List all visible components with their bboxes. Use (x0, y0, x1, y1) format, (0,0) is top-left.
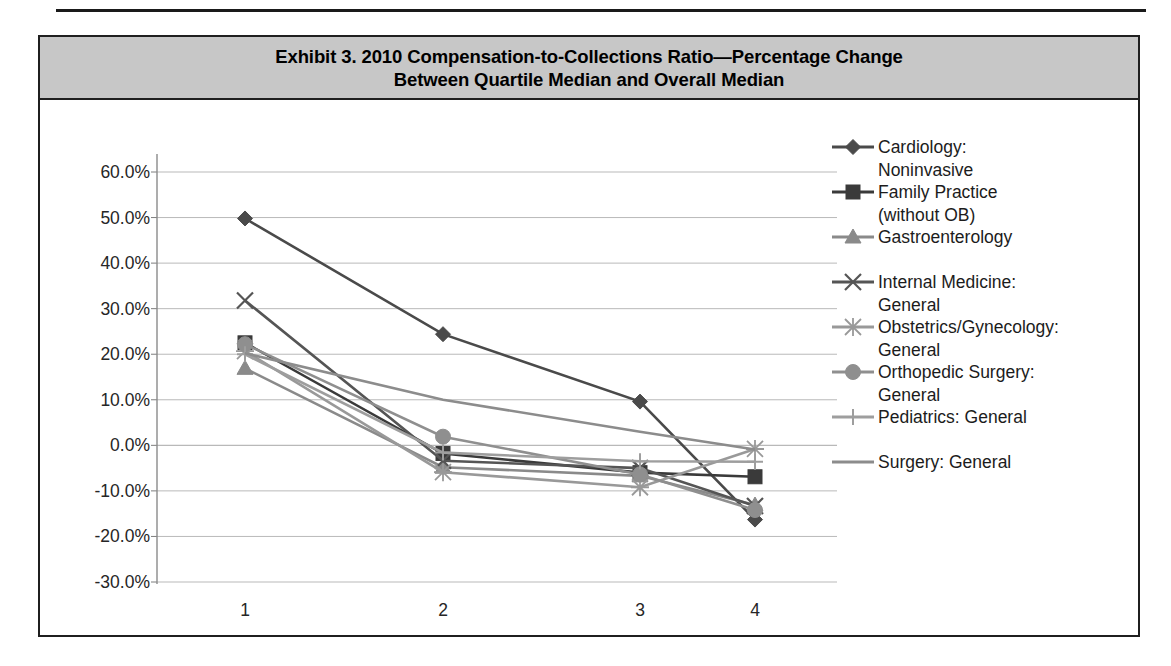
legend-marker-triangle-icon (830, 227, 876, 247)
legend-label-0: Cardiology: Noninvasive (878, 136, 973, 181)
legend-item-1[interactable]: Family Practice (without OB) (830, 181, 998, 226)
data-point-marker (846, 185, 860, 199)
legend-marker-square-icon (830, 182, 876, 202)
legend-label-7: Surgery: General (878, 451, 1011, 474)
legend-item-4[interactable]: Obstetrics/Gynecology: General (830, 316, 1059, 361)
x-tick-label: 4 (735, 600, 775, 621)
legend-marker-none-icon (830, 452, 876, 472)
data-point-marker (846, 365, 861, 380)
exhibit-frame: Exhibit 3. 2010 Compensation-to-Collecti… (38, 35, 1140, 637)
legend-item-3[interactable]: Internal Medicine: General (830, 271, 1016, 316)
legend-marker-circle-icon (830, 362, 876, 382)
legend-item-7[interactable]: Surgery: General (830, 451, 1011, 474)
legend-item-5[interactable]: Orthopedic Surgery: General (830, 361, 1035, 406)
exhibit-page: Exhibit 3. 2010 Compensation-to-Collecti… (0, 0, 1171, 666)
legend-marker-plus-icon (830, 407, 876, 427)
legend-label-2: Gastroenterology (878, 226, 1012, 249)
legend-item-0[interactable]: Cardiology: Noninvasive (830, 136, 973, 181)
legend-marker-diamond-icon (830, 137, 876, 157)
legend-marker-asterisk-icon (830, 317, 876, 337)
data-point-marker (845, 409, 861, 425)
data-point-marker (844, 318, 862, 336)
chart-region: 60.0%50.0%40.0%30.0%20.0%10.0%0.0%-10.0%… (40, 100, 1138, 635)
page-top-rule (56, 9, 1146, 12)
legend-label-6: Pediatrics: General (878, 406, 1027, 429)
legend-label-3: Internal Medicine: General (878, 271, 1016, 316)
legend-item-2[interactable]: Gastroenterology (830, 226, 1012, 249)
x-tick-label: 1 (225, 600, 265, 621)
legend-label-1: Family Practice (without OB) (878, 181, 998, 226)
legend-item-6[interactable]: Pediatrics: General (830, 406, 1027, 429)
data-point-marker (846, 140, 861, 155)
legend-label-4: Obstetrics/Gynecology: General (878, 316, 1059, 361)
legend-label-5: Orthopedic Surgery: General (878, 361, 1035, 406)
x-tick-label: 3 (620, 600, 660, 621)
legend-marker-x-icon (830, 272, 876, 292)
x-tick-label: 2 (423, 600, 463, 621)
exhibit-title: Exhibit 3. 2010 Compensation-to-Collecti… (255, 45, 923, 91)
exhibit-title-band: Exhibit 3. 2010 Compensation-to-Collecti… (40, 37, 1138, 100)
